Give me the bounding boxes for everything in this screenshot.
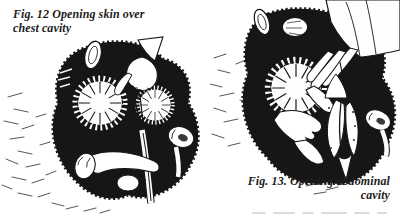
head-patch (283, 18, 307, 36)
fig13-caption-line2: cavity (248, 189, 390, 203)
cropped-next-line-remnant (252, 211, 392, 215)
scanned-book-page: Fig. 12 Opening skin over chest cavity (0, 0, 400, 216)
fig13-caption-line1: Fig. 13. Opening abdominal (248, 175, 390, 189)
fig13-caption: Fig. 13. Opening abdominal cavity (248, 175, 390, 202)
fig12-illustration (0, 25, 225, 216)
fig12-caption-line1: Fig. 12 Opening skin over (13, 8, 145, 22)
